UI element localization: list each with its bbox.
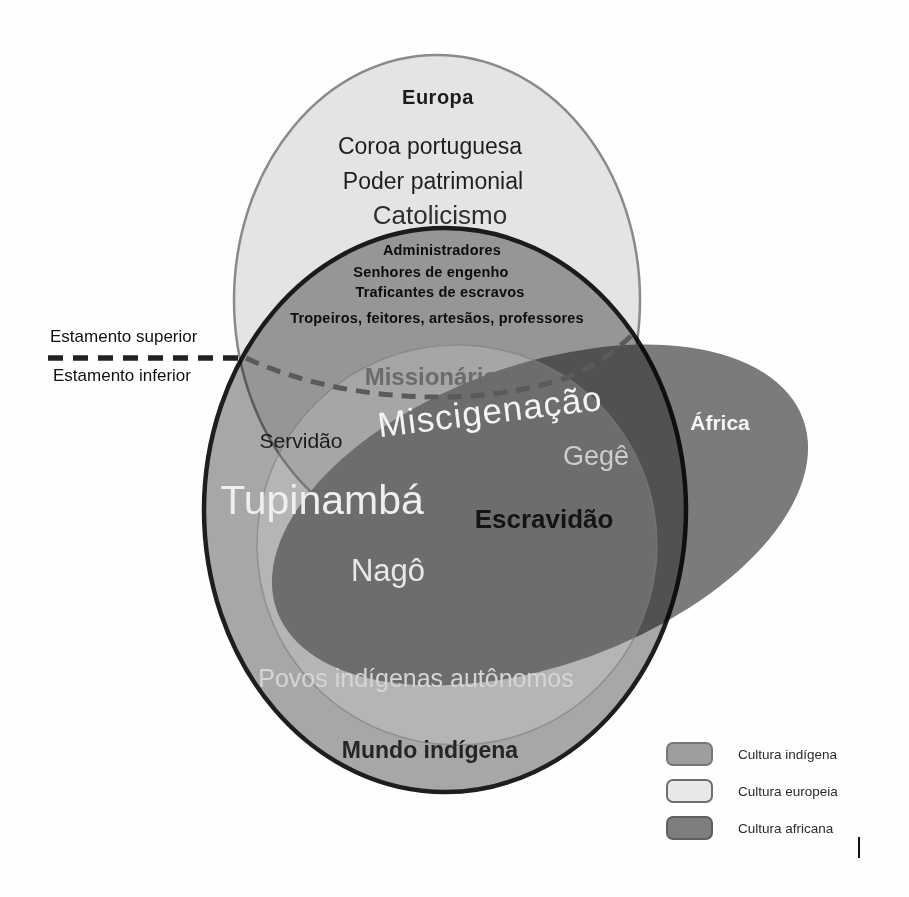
legend: Cultura indígena Cultura europeia Cultur…	[666, 742, 838, 853]
legend-swatch-indigenous	[666, 742, 713, 766]
legend-label-african: Cultura africana	[738, 821, 833, 836]
label-tupinamba: Tupinambá	[220, 480, 424, 521]
label-tropeiros-feitores: Tropeiros, feitores, artesãos, professor…	[290, 311, 584, 326]
label-estamento-inferior: Estamento inferior	[53, 367, 191, 384]
legend-label-indigenous: Cultura indígena	[738, 747, 837, 762]
label-coroa-portuguesa: Coroa portuguesa	[338, 135, 522, 158]
label-poder-patrimonial: Poder patrimonial	[343, 170, 523, 193]
label-administradores: Administradores	[383, 243, 501, 258]
label-estamento-superior: Estamento superior	[50, 328, 197, 345]
label-senhores-de-engenho: Senhores de engenho	[353, 265, 508, 280]
label-nago: Nagô	[351, 555, 425, 586]
legend-row-european: Cultura europeia	[666, 779, 838, 803]
label-mundo-indigena: Mundo indígena	[342, 739, 518, 762]
text-cursor-artifact	[858, 837, 860, 858]
label-catolicismo: Catolicismo	[373, 202, 507, 228]
legend-row-african: Cultura africana	[666, 816, 838, 840]
legend-row-indigenous: Cultura indígena	[666, 742, 838, 766]
label-gege: Gegê	[563, 443, 629, 470]
europe-title: Europa	[402, 87, 474, 107]
label-servidao: Servidão	[260, 430, 343, 451]
legend-label-european: Cultura europeia	[738, 784, 838, 799]
label-povos-indigenas-autonomos: Povos indígenas autônomos	[258, 666, 574, 691]
label-escravidao: Escravidão	[475, 506, 614, 532]
legend-swatch-african	[666, 816, 713, 840]
label-missionarios: Missionários	[365, 365, 512, 389]
euler-diagram-canvas: Europa Coroa portuguesa Poder patrimonia…	[0, 0, 909, 897]
legend-swatch-european	[666, 779, 713, 803]
africa-title: África	[690, 412, 750, 433]
label-traficantes-de-escravos: Traficantes de escravos	[355, 285, 524, 300]
